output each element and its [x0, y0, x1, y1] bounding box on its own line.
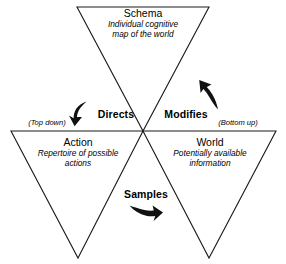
world-subtitle-line2: information — [160, 158, 260, 168]
action-subtitle-line2: actions — [28, 158, 128, 168]
relation-label-samples: Samples — [114, 188, 178, 200]
directs-arrow-icon — [62, 100, 88, 128]
schema-action-world-diagram: Schema Individual cognitive map of the w… — [0, 0, 286, 264]
world-subtitle-line1: Potentially available — [160, 148, 260, 158]
samples-arrow-icon — [128, 200, 164, 224]
diagram-triangles — [0, 0, 286, 264]
relation-label-directs: Directs — [88, 108, 144, 120]
schema-title: Schema — [93, 7, 193, 19]
action-title: Action — [28, 136, 128, 148]
node-schema: Schema Individual cognitive map of the w… — [93, 7, 193, 39]
node-world: World Potentially available information — [160, 136, 260, 168]
schema-subtitle-line1: Individual cognitive — [93, 19, 193, 29]
node-action: Action Repertoire of possible actions — [28, 136, 128, 168]
action-subtitle-line1: Repertoire of possible — [28, 148, 128, 158]
schema-subtitle-line2: map of the world — [93, 29, 193, 39]
modifies-arrow-icon — [196, 79, 222, 111]
world-title: World — [160, 136, 260, 148]
annotation-bottom-up: (Bottom up) — [206, 119, 270, 128]
